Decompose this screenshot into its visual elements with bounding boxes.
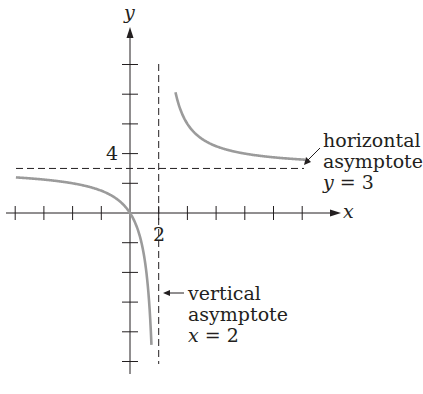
- x-axis-label: x: [343, 202, 354, 221]
- h-asym-pointer-line: [308, 148, 320, 160]
- axes: [0, 27, 341, 374]
- right-branch-curve: [175, 92, 305, 159]
- y-axis-arrowhead-icon: [127, 27, 134, 38]
- v-asym-line1: vertical: [188, 283, 288, 304]
- vertical-asymptote-annotation: vertical asymptote x = 2: [188, 283, 288, 346]
- h-asym-var: y: [323, 171, 334, 193]
- x-axis-arrowhead-icon: [330, 210, 341, 217]
- horizontal-asymptote-annotation: horizontal asymptote y = 3: [323, 130, 423, 193]
- v-asym-equation: x = 2: [188, 325, 288, 346]
- h-asym-equation: y = 3: [323, 172, 423, 193]
- h-asym-line1: horizontal: [323, 130, 423, 151]
- v-asym-var: x: [188, 324, 199, 346]
- h-asym-value: = 3: [334, 171, 374, 193]
- v-asym-arrowhead-icon: [163, 290, 170, 296]
- v-asym-value: = 2: [199, 324, 239, 346]
- y-tick-label-4: 4: [106, 144, 118, 163]
- x-tick-label-2: 2: [153, 225, 165, 244]
- h-asym-line2: asymptote: [323, 151, 423, 172]
- v-asym-line2: asymptote: [188, 304, 288, 325]
- annotation-arrows: [163, 148, 320, 296]
- left-branch-curve: [16, 177, 152, 344]
- y-axis-label: y: [124, 3, 135, 22]
